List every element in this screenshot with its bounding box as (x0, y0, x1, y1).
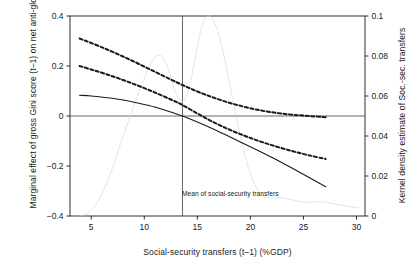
y-tick-label-right: 0.06 (372, 91, 406, 101)
x-tick-label: 30 (337, 222, 377, 232)
x-axis-label: Social-security transfers (t–1) (%GDP) (70, 247, 365, 257)
y-tick-label-right: 0.1 (372, 11, 406, 21)
y-tick-label-left: −0.4 (30, 211, 64, 221)
y-tick-label-right: 0 (372, 211, 406, 221)
y-tick-label-right: 0.08 (372, 51, 406, 61)
y-tick-label-left: 0 (30, 111, 64, 121)
x-tick-label: 15 (177, 222, 217, 232)
figure-container: Marginal effect of gross Gini score (t–1… (0, 0, 420, 270)
y-tick-label-left: 0.2 (30, 61, 64, 71)
y-axis-label-right: Kernel density estimate of Soc.-sec. tra… (397, 21, 408, 211)
series-solid-line (80, 95, 326, 187)
mean-line-annotation: Mean of social-security transfers (182, 190, 279, 197)
y-tick-label-right: 0.04 (372, 131, 406, 141)
x-tick-label: 25 (283, 222, 323, 232)
y-tick-label-right: 0.02 (372, 171, 406, 181)
x-tick-label: 5 (71, 222, 111, 232)
y-tick-label-left: −0.2 (30, 161, 64, 171)
x-tick-label: 10 (124, 222, 164, 232)
y-tick-label-left: 0.4 (30, 11, 64, 21)
x-tick-label: 20 (230, 222, 270, 232)
series-dashed-line (80, 66, 326, 159)
